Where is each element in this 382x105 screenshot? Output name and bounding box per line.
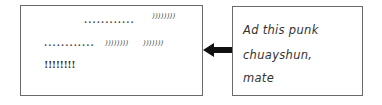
note-line-1: Ad this punk [243, 23, 319, 37]
commas-line-1: )))))))) [152, 12, 175, 20]
exclamations-line-3: !!!!!!!! [44, 59, 75, 70]
punctuation-box: ............ )))))))) ............ )))))… [20, 5, 203, 96]
commas-line-2b: ))))))) [143, 39, 164, 47]
note-line-2: chuayshun, [243, 48, 312, 62]
instruction-note-box: Ad this punk chuayshun, mate [232, 6, 363, 96]
dots-line-2: ............ [44, 38, 95, 48]
dots-line-1: ............ [84, 15, 135, 25]
commas-line-2a: )))))))) [105, 39, 128, 47]
note-line-3: mate [243, 71, 274, 85]
arrow-left-icon [203, 42, 233, 58]
